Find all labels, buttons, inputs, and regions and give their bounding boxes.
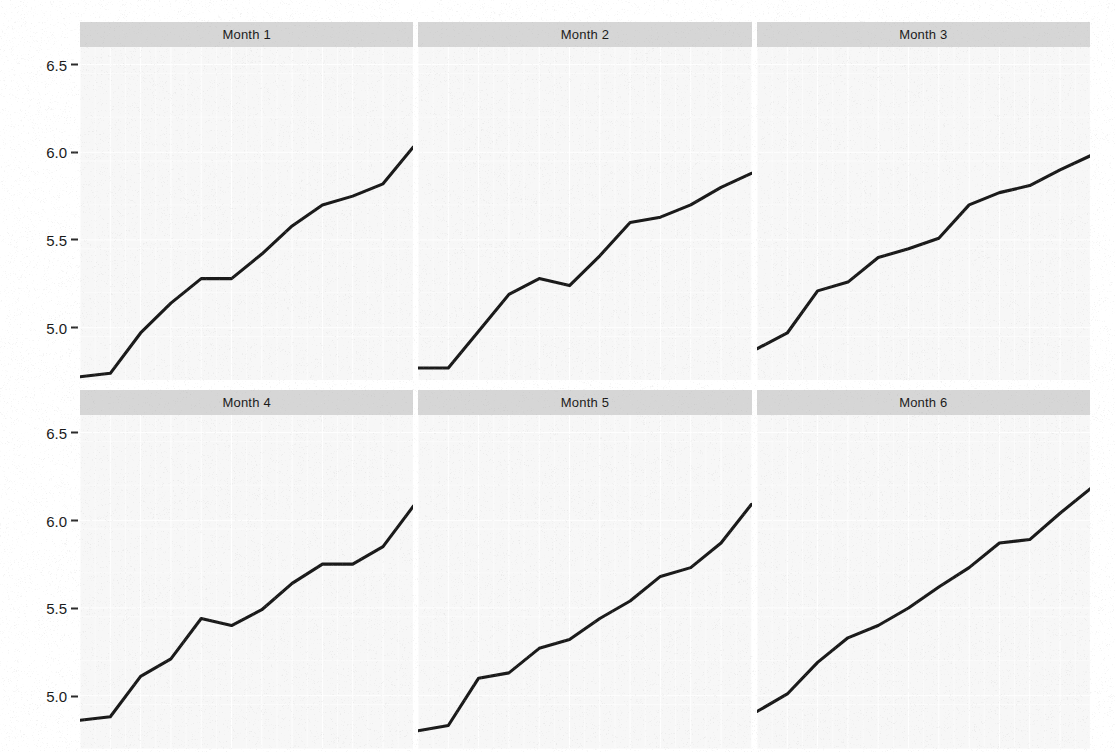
- y-tick-label: 5.0: [46, 320, 67, 335]
- facet-grid: 5.05.56.06.5 Month 1 Month 2 Month 3 5.0…: [0, 0, 1115, 752]
- y-tick: 5.5: [46, 232, 80, 247]
- y-axis-row-2: 5.05.56.06.5: [0, 390, 80, 748]
- strip-label-month-5: Month 5: [418, 390, 751, 415]
- y-tick-mark: [71, 239, 78, 241]
- y-tick: 5.0: [46, 689, 80, 704]
- strip-label-month-4: Month 4: [80, 390, 413, 415]
- y-tick-mark: [71, 151, 78, 153]
- y-tick: 6.5: [46, 57, 80, 72]
- panel-month-6: Month 6: [757, 390, 1090, 748]
- strip-label-month-2: Month 2: [418, 22, 751, 47]
- plot-area-month-2: [418, 47, 751, 380]
- y-tick-label: 5.0: [46, 689, 67, 704]
- y-tick-label: 6.0: [46, 513, 67, 528]
- panel-month-1: Month 1: [80, 22, 413, 380]
- plot-area-month-5: [418, 415, 751, 748]
- y-tick-label: 5.5: [46, 232, 67, 247]
- y-tick-mark: [71, 607, 78, 609]
- plot-area-month-1: [80, 47, 413, 380]
- y-tick-mark: [71, 432, 78, 434]
- plot-area-month-6: [757, 415, 1090, 748]
- y-tick-label: 6.5: [46, 57, 67, 72]
- faceted-line-chart: 5.05.56.06.5 Month 1 Month 2 Month 3 5.0…: [0, 0, 1115, 752]
- panel-month-4: Month 4: [80, 390, 413, 748]
- y-tick: 6.0: [46, 145, 80, 160]
- plot-area-month-3: [757, 47, 1090, 380]
- y-tick-mark: [71, 520, 78, 522]
- panel-month-3: Month 3: [757, 22, 1090, 380]
- y-tick-mark: [71, 64, 78, 66]
- y-tick: 5.0: [46, 320, 80, 335]
- y-tick: 6.0: [46, 513, 80, 528]
- strip-label-month-1: Month 1: [80, 22, 413, 47]
- panel-month-2: Month 2: [418, 22, 751, 380]
- y-tick-label: 5.5: [46, 601, 67, 616]
- strip-label-month-3: Month 3: [757, 22, 1090, 47]
- y-tick-mark: [71, 327, 78, 329]
- plot-area-month-4: [80, 415, 413, 748]
- y-tick-label: 6.5: [46, 425, 67, 440]
- strip-label-month-6: Month 6: [757, 390, 1090, 415]
- y-tick: 5.5: [46, 601, 80, 616]
- y-axis-row-1: 5.05.56.06.5: [0, 22, 80, 380]
- panel-month-5: Month 5: [418, 390, 751, 748]
- y-tick-mark: [71, 695, 78, 697]
- y-tick-label: 6.0: [46, 145, 67, 160]
- y-tick: 6.5: [46, 425, 80, 440]
